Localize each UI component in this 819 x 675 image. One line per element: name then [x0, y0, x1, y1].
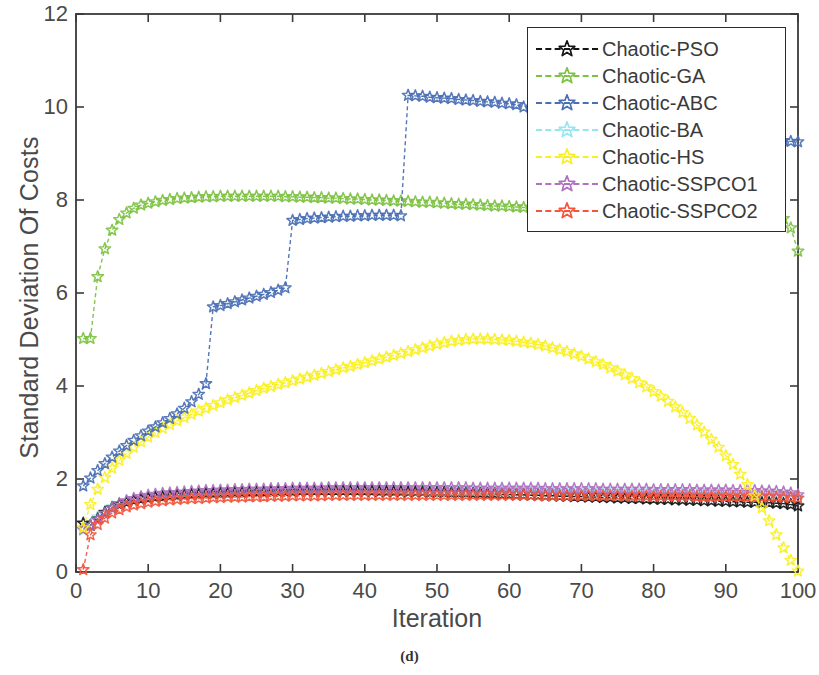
legend-item-label: Chaotic-ABC: [602, 93, 718, 113]
legend-item-label: Chaotic-PSO: [602, 39, 719, 59]
figure-caption: (d): [0, 648, 819, 665]
x-tick-label: 80: [641, 578, 665, 604]
legend-item-label: Chaotic-BA: [602, 120, 703, 140]
y-tick-label: 4: [28, 373, 68, 399]
legend-sample-line: [536, 146, 598, 168]
series-chaotic-hs: [78, 333, 804, 576]
star-icon: [557, 201, 577, 221]
legend-sample-line: [536, 200, 598, 222]
y-tick-label: 10: [28, 94, 68, 120]
y-tick-label: 6: [28, 280, 68, 306]
legend-item-chaotic-abc[interactable]: Chaotic-ABC: [536, 89, 779, 116]
series-chaotic-sspco1: [78, 482, 804, 534]
legend-sample-line: [536, 65, 598, 87]
legend-sample-line: [536, 38, 598, 60]
star-icon: [557, 39, 577, 59]
x-tick-label: 10: [136, 578, 160, 604]
legend-item-chaotic-ga[interactable]: Chaotic-GA: [536, 62, 779, 89]
y-tick-label: 8: [28, 187, 68, 213]
legend-item-label: Chaotic-GA: [602, 66, 705, 86]
star-icon: [557, 66, 577, 86]
star-icon: [557, 93, 577, 113]
y-tick-label: 12: [28, 1, 68, 27]
legend-item-label: Chaotic-SSPCO2: [602, 201, 758, 221]
legend-item-chaotic-sspco2[interactable]: Chaotic-SSPCO2: [536, 197, 779, 224]
x-tick-label: 40: [353, 578, 377, 604]
legend-item-chaotic-ba[interactable]: Chaotic-BA: [536, 116, 779, 143]
x-axis-label: Iteration: [76, 604, 798, 633]
legend-sample-line: [536, 92, 598, 114]
x-tick-label: 50: [425, 578, 449, 604]
series-chaotic-sspco2: [78, 489, 804, 574]
x-tick-label: 100: [780, 578, 817, 604]
legend-item-chaotic-hs[interactable]: Chaotic-HS: [536, 143, 779, 170]
star-icon: [557, 120, 577, 140]
legend-item-chaotic-pso[interactable]: Chaotic-PSO: [536, 35, 779, 62]
chart-legend: Chaotic-PSOChaotic-GAChaotic-ABCChaotic-…: [527, 27, 786, 232]
figure-panel-d: Standard Deviation Of Costs 024681012 01…: [0, 0, 819, 675]
x-tick-label: 60: [497, 578, 521, 604]
legend-item-chaotic-sspco1[interactable]: Chaotic-SSPCO1: [536, 170, 779, 197]
x-tick-label: 90: [714, 578, 738, 604]
star-icon: [557, 174, 577, 194]
star-icon: [557, 147, 577, 167]
x-tick-label: 20: [208, 578, 232, 604]
x-tick-label: 70: [569, 578, 593, 604]
y-tick-label: 2: [28, 466, 68, 492]
legend-sample-line: [536, 119, 598, 141]
legend-item-label: Chaotic-HS: [602, 147, 704, 167]
legend-sample-line: [536, 173, 598, 195]
x-tick-label: 30: [280, 578, 304, 604]
legend-item-label: Chaotic-SSPCO1: [602, 174, 758, 194]
x-tick-label: 0: [70, 578, 82, 604]
y-tick-label-group: 024681012: [14, 0, 68, 675]
